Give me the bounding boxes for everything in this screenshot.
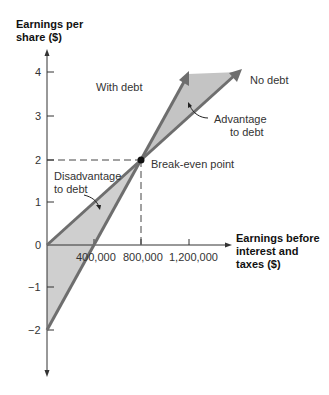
y-tick-4: 4 xyxy=(35,66,41,78)
x-axis-title-line1: Earnings before xyxy=(236,232,320,245)
y-tick-3: 3 xyxy=(35,110,41,122)
x-tick-800000: 800,000 xyxy=(123,251,163,263)
y-axis-arrow-down-icon xyxy=(45,370,50,377)
y-tick-1: 1 xyxy=(35,196,41,208)
with-debt-label: With debt xyxy=(96,81,142,94)
break-even-label: Break-even point xyxy=(151,158,234,171)
y-axis-title-line2: share ($) xyxy=(16,31,62,44)
y-axis-arrow-up-icon xyxy=(45,49,50,56)
advantage-label-line1: Advantage xyxy=(214,113,267,126)
x-axis-title-line3: taxes ($) xyxy=(236,258,281,271)
x-axis-arrow-right-icon xyxy=(225,243,232,248)
disadvantage-label-line1: Disadvantage xyxy=(54,170,121,183)
no-debt-label: No debt xyxy=(250,74,289,87)
break-even-point xyxy=(138,157,145,164)
y-tick-2: 2 xyxy=(35,154,41,166)
with-debt-line xyxy=(47,80,185,330)
y-tick-minus-1: −1 xyxy=(28,281,41,293)
x-tick-1200000: 1,200,000 xyxy=(169,251,218,263)
advantage-label-line2: to debt xyxy=(230,126,264,139)
y-tick-0: 0 xyxy=(35,239,41,251)
x-axis-title-line2: interest and xyxy=(236,245,298,258)
disadvantage-label-line2: to debt xyxy=(54,183,88,196)
x-ticks xyxy=(94,239,189,245)
y-tick-minus-2: −2 xyxy=(28,324,41,336)
chart-canvas xyxy=(0,0,329,395)
y-axis-title-line1: Earnings per xyxy=(16,18,83,31)
x-tick-400000: 400,000 xyxy=(76,251,116,263)
